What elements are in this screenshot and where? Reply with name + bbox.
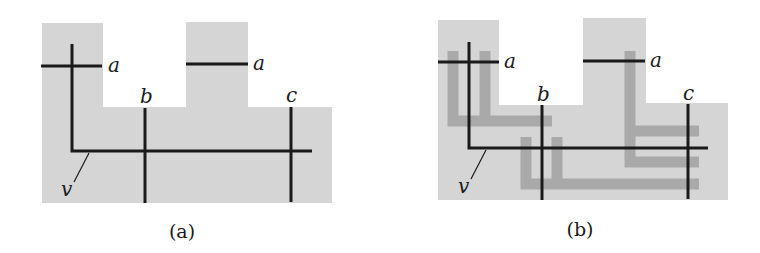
panel-b-caption: (b) (567, 218, 594, 240)
panel-b-label-v: v (458, 174, 470, 198)
panel-a-label-v: v (61, 177, 73, 201)
panel-a-label-a-right: a (253, 51, 265, 75)
panel-b-label-c: c (683, 81, 694, 105)
panel-b-label-a-left: a (504, 49, 516, 73)
panel-a-label-b: b (140, 84, 153, 108)
panel-a-label-a-left: a (108, 53, 120, 77)
panel-b: a a b c v (b) (438, 18, 728, 240)
panel-b-label-b: b (537, 82, 550, 106)
panel-a-caption: (a) (169, 220, 195, 242)
figure: a a b c v (a) a a b c v (b) (0, 0, 760, 253)
panel-a-label-c: c (286, 83, 297, 107)
panel-a: a a b c v (a) (41, 22, 332, 242)
panel-a-region (42, 22, 332, 203)
panel-b-label-a-right: a (650, 48, 662, 72)
